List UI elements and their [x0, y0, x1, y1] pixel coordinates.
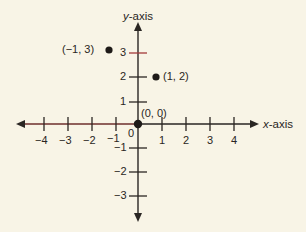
x-tick-label: −4 [35, 135, 48, 146]
x-tick-label: 3 [207, 135, 213, 146]
x-axis-right-arrow-icon [250, 120, 259, 128]
y-tick-label: 3 [120, 47, 126, 58]
x-axis-left-arrow-icon [16, 120, 25, 128]
point-label-origin: (0, 0) [141, 108, 167, 119]
point-origin [134, 120, 142, 128]
x-tick-label: −3 [59, 135, 72, 146]
y-tick-label: −2 [114, 166, 127, 177]
y-tick-label: 1 [120, 96, 126, 107]
point-label-neg1-3: (−1, 3) [62, 44, 94, 55]
y-axis-suffix: -axis [129, 10, 153, 22]
y-tick-label: −1 [114, 142, 127, 153]
point-neg1-3 [105, 46, 112, 53]
x-tick-label: 2 [183, 135, 189, 146]
x-axis-title: x-axis [263, 119, 293, 131]
x-tick-label: −2 [83, 135, 96, 146]
x-tick-label: 1 [159, 135, 165, 146]
y-tick-label: −3 [114, 190, 127, 201]
y-axis-title: y-axis [123, 11, 153, 23]
y-axis-up-arrow-icon [134, 22, 142, 31]
y-axis-down-arrow-icon [134, 213, 142, 222]
x-tick-label: 4 [231, 135, 237, 146]
x-axis-suffix: -axis [269, 118, 293, 130]
zero-label: 0 [128, 128, 134, 139]
point-label-1-2: (1, 2) [163, 71, 189, 82]
point-1-2 [152, 73, 159, 80]
y-tick-label: 2 [120, 71, 126, 82]
